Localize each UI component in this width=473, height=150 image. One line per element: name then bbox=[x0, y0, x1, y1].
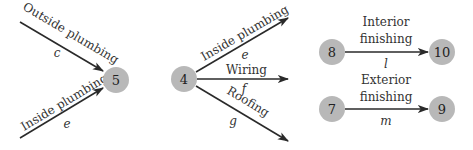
edge-variable-c: c bbox=[54, 46, 61, 60]
merge-group: Outside plumbing c Inside plumbing e 5 bbox=[18, 0, 129, 138]
edge-label-wiring: Wiring bbox=[226, 63, 267, 77]
node-label-8: 8 bbox=[328, 45, 336, 60]
edge-variable-e-left: e bbox=[63, 117, 70, 131]
node-label-9: 9 bbox=[438, 102, 446, 117]
edge-variable-g: g bbox=[229, 114, 237, 128]
node-label-10: 10 bbox=[434, 45, 451, 60]
interior-group: Interior finishing l 8 10 bbox=[319, 15, 455, 71]
network-diagram: Outside plumbing c Inside plumbing e 5 I… bbox=[0, 0, 473, 150]
exterior-group: Exterior finishing m 7 9 bbox=[319, 73, 455, 128]
edge-label-exterior-line1: Exterior bbox=[361, 73, 411, 87]
edge-label-outside-plumbing: Outside plumbing bbox=[20, 0, 121, 67]
edge-variable-l: l bbox=[384, 57, 388, 71]
node-label-7: 7 bbox=[328, 102, 336, 117]
edge-variable-e-right: e bbox=[241, 48, 248, 62]
split-group: Inside plumbing e Wiring f Roofing g 4 bbox=[171, 2, 291, 141]
node-label-4: 4 bbox=[180, 72, 188, 87]
edge-label-interior-line1: Interior bbox=[363, 15, 410, 29]
edge-label-exterior-line2: finishing bbox=[360, 90, 413, 104]
node-label-5: 5 bbox=[112, 73, 120, 88]
edge-label-interior-line2: finishing bbox=[360, 32, 413, 46]
edge-variable-m: m bbox=[380, 114, 391, 128]
